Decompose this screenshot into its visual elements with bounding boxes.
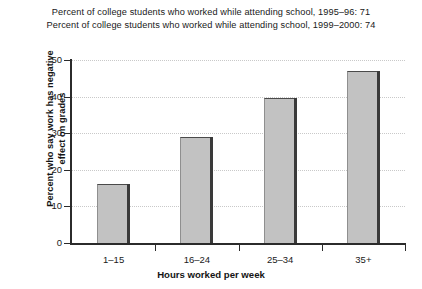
x-axis-tick: [322, 244, 323, 251]
bar-shadow: [377, 71, 380, 243]
plot-area: [72, 60, 405, 243]
y-axis-tick-label: 40: [36, 92, 62, 102]
bar: [97, 184, 130, 243]
y-axis-tick-label: 20: [36, 165, 62, 175]
y-axis-tick-label: 0: [36, 238, 62, 248]
bar: [347, 71, 380, 243]
x-axis-tick-label: 1–15: [74, 254, 154, 265]
x-axis-tick: [239, 244, 240, 251]
gridline: [72, 60, 405, 61]
bar-chart: Percent who say work has negative effect…: [0, 0, 422, 289]
bar-shadow: [294, 98, 297, 243]
y-axis-tick-label: 30: [36, 128, 62, 138]
x-axis-title: Hours worked per week: [0, 269, 422, 280]
y-axis-line: [70, 59, 72, 245]
x-axis-tick-end: [405, 244, 406, 251]
bar: [264, 98, 297, 243]
x-axis-tick-label: 35+: [323, 254, 403, 265]
y-axis-tick-label: 10: [36, 201, 62, 211]
y-axis-tick-label: 50: [36, 55, 62, 65]
x-axis-tick-label: 16–24: [157, 254, 237, 265]
bar: [180, 137, 213, 243]
bar-shadow: [127, 184, 130, 243]
bar-shadow: [210, 137, 213, 243]
x-axis-tick-label: 25–34: [240, 254, 320, 265]
x-axis-tick: [155, 244, 156, 251]
